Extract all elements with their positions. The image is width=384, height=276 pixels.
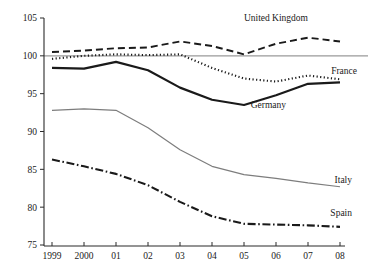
series-label-spain: Spain <box>330 208 352 218</box>
series-label-united-kingdom: United Kingdom <box>244 13 309 23</box>
series-line-germany <box>52 62 340 105</box>
y-tick-label: 85 <box>28 165 38 175</box>
y-tick-label: 90 <box>28 127 38 137</box>
series-label-france: France <box>331 66 357 76</box>
x-tick-label: 1999 <box>43 251 62 261</box>
series-group <box>52 38 340 227</box>
series-label-germany: Germany <box>251 100 287 110</box>
x-tick-label: 07 <box>303 251 313 261</box>
x-tick-label: 01 <box>111 251 121 261</box>
x-tick-label: 02 <box>143 251 153 261</box>
x-tick-label: 05 <box>239 251 249 261</box>
chart-canvas: 1051009590858075 19992000010203040506070… <box>0 0 384 276</box>
y-tick-label: 95 <box>28 89 38 99</box>
series-line-italy <box>52 109 340 187</box>
series-line-united-kingdom <box>52 38 340 55</box>
x-tick-label: 08 <box>335 251 345 261</box>
y-tick-label: 80 <box>28 203 38 213</box>
axis-line-group <box>44 18 345 246</box>
y-tick-label: 75 <box>28 240 38 250</box>
x-axis-tick-group: 199920000102030405060708 <box>43 242 346 261</box>
series-line-spain <box>52 160 340 227</box>
series-label-italy: Italy <box>335 175 353 185</box>
x-tick-label: 06 <box>271 251 281 261</box>
line-chart: 1051009590858075 19992000010203040506070… <box>0 0 384 276</box>
x-tick-label: 2000 <box>75 251 94 261</box>
series-label-group: United KingdomFranceGermanyItalySpain <box>244 13 357 218</box>
x-tick-label: 04 <box>207 251 217 261</box>
series-line-france <box>52 54 340 81</box>
y-axis-tick-group: 1051009590858075 <box>23 13 44 250</box>
y-tick-label: 100 <box>23 51 38 61</box>
x-tick-label: 03 <box>175 251 185 261</box>
y-tick-label: 105 <box>23 13 38 23</box>
